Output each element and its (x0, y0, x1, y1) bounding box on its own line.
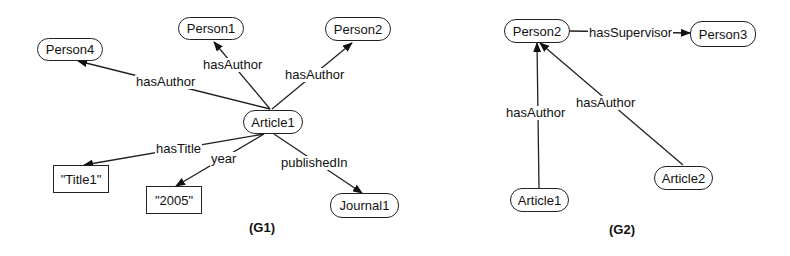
node-person2: Person2 (325, 17, 391, 41)
edge-label-year: year (210, 152, 237, 166)
node-journal1: Journal1 (330, 193, 399, 218)
edge-line (214, 42, 270, 109)
edge-label-hastitle: hasTitle (155, 142, 202, 156)
edge-label-publishedin: publishedIn (280, 156, 349, 170)
node-person1: Person1 (178, 17, 244, 40)
graph-caption-g2: (G2) (609, 222, 635, 237)
edge-label-hassupervisor: hasSupervisor (588, 26, 673, 40)
node-person2: Person2 (504, 19, 570, 43)
node-article1: Article1 (243, 110, 303, 134)
node-person4: Person4 (37, 38, 103, 61)
edge-label-hasauthor: hasAuthor (202, 58, 263, 72)
node-person3: Person3 (690, 21, 756, 47)
graph-caption-g1: (G1) (249, 220, 275, 235)
node-article2: Article2 (654, 166, 713, 190)
node-literal-2005: "2005" (146, 186, 202, 214)
edge-label-hasauthor: hasAuthor (135, 75, 196, 89)
node-literal-title1: "Title1" (53, 165, 109, 193)
edge-label-hasauthor: hasAuthor (575, 96, 636, 110)
edge-label-hasauthor: hasAuthor (284, 68, 345, 82)
edge-label-hasauthor: hasAuthor (505, 106, 566, 120)
node-article1: Article1 (510, 188, 569, 212)
